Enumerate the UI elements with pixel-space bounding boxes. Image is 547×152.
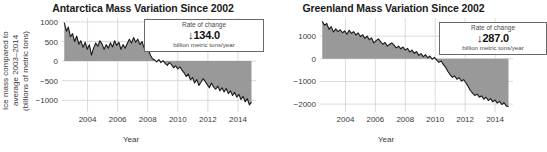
rate-of-change-number: 287.0	[482, 32, 509, 44]
y-axis-label-line-1: Ice mass compared to	[1, 18, 11, 123]
greenland-rate-of-change-box: Rate of change ↓287.0 billion metric ton…	[439, 22, 547, 55]
y-tick-label: −1000	[36, 96, 59, 105]
antarctica-x-axis-label: Year	[36, 135, 226, 144]
rate-of-change-value: ↓287.0	[444, 33, 542, 45]
y-axis-label-line-3: (billions of metric tons)	[21, 18, 31, 123]
x-tick-label: 2010	[169, 115, 187, 124]
x-tick-label: 2012	[456, 115, 474, 124]
x-tick-label: 2012	[199, 115, 217, 124]
y-tick-label: −500	[40, 77, 59, 86]
x-tick-label: 2006	[109, 115, 127, 124]
y-tick-label: −2000	[294, 100, 317, 109]
rate-of-change-label: Rate of change	[444, 25, 542, 32]
x-tick-label: 2014	[486, 115, 504, 124]
greenland-x-axis-label: Year	[286, 135, 486, 144]
antarctica-rate-of-change-box: Rate of change ↓134.0 billion metric ton…	[144, 19, 264, 52]
x-tick-label: 2008	[396, 115, 414, 124]
rate-of-change-units: billion metric tons/year	[149, 42, 259, 49]
y-tick-label: −1000	[294, 77, 317, 86]
y-tick-label: 0	[54, 57, 59, 66]
rate-of-change-value: ↓134.0	[149, 30, 259, 42]
y-tick-label: 500	[45, 38, 59, 47]
antarctica-y-axis-label: Ice mass compared to average 2003–2014 (…	[1, 18, 35, 123]
rate-of-change-label: Rate of change	[149, 22, 259, 29]
y-axis-label-line-2: average 2003–2014	[11, 18, 21, 123]
antarctica-chart-panel: Antarctica Mass Variation Since 2002 Ice…	[0, 0, 258, 152]
y-tick-label: 1000	[40, 18, 58, 27]
y-tick-label: 0	[312, 55, 317, 64]
x-tick-label: 2014	[229, 115, 247, 124]
rate-of-change-number: 134.0	[193, 29, 220, 41]
x-tick-label: 2004	[337, 115, 355, 124]
x-tick-label: 2006	[366, 115, 384, 124]
rate-of-change-units: billion metric tons/year	[444, 45, 542, 52]
greenland-chart-title: Greenland Mass Variation Since 2002	[258, 2, 515, 14]
greenland-chart-panel: Greenland Mass Variation Since 2002 1000…	[258, 0, 515, 152]
x-tick-label: 2004	[79, 115, 97, 124]
y-tick-label: 1000	[298, 32, 316, 41]
x-tick-label: 2008	[139, 115, 157, 124]
x-tick-label: 2010	[426, 115, 444, 124]
antarctica-chart-title: Antarctica Mass Variation Since 2002	[0, 2, 258, 14]
